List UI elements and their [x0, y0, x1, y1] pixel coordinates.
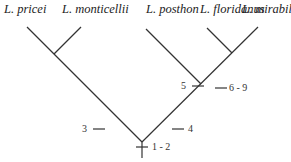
taxon-posthon: L. posthon: [145, 2, 199, 16]
cladogram: L. pricei L. monticellii L. posthon L. f…: [0, 0, 291, 162]
branch-floridanus: [207, 28, 232, 53]
branches: [27, 27, 258, 158]
label-changes-3: 3: [82, 123, 87, 134]
label-changes-5: 5: [181, 80, 186, 91]
taxon-pricei: L. pricei: [3, 2, 47, 16]
taxon-mirabilis: L. mirabilis: [241, 2, 291, 16]
branch-monticellii: [54, 27, 81, 54]
branch-posthon: [146, 29, 201, 84]
label-root-changes: 1 - 2: [152, 141, 170, 152]
label-changes-4: 4: [188, 123, 193, 134]
label-changes-6-9: 6 - 9: [229, 82, 247, 93]
character-ticks: [93, 86, 227, 147]
taxon-monticellii: L. monticellii: [61, 2, 129, 16]
